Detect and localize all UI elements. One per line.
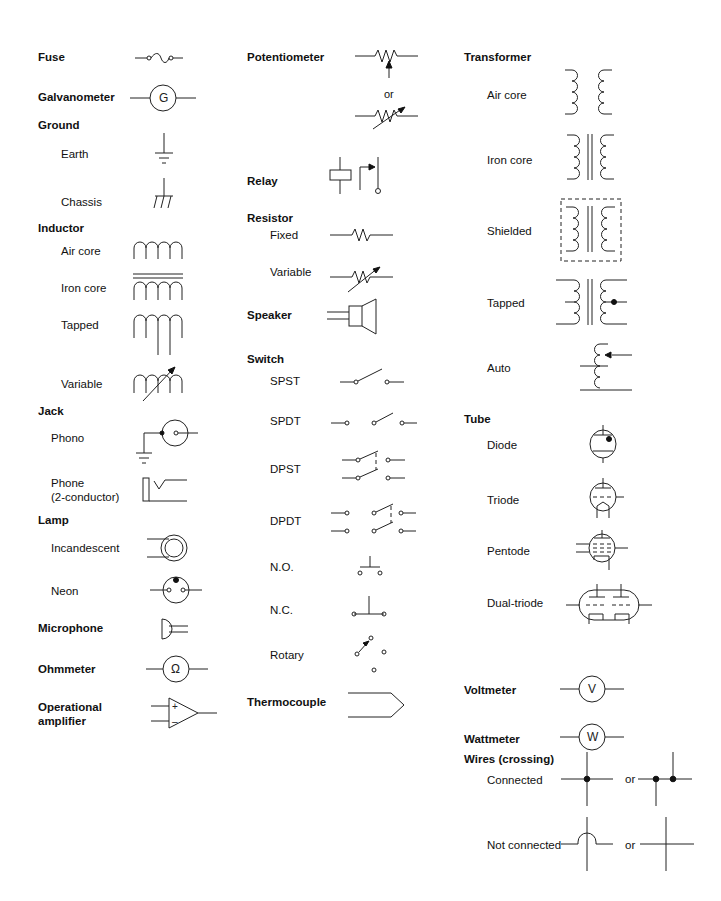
label-inductor-air: Air core bbox=[61, 244, 101, 258]
inductor-iron-core-symbol bbox=[133, 273, 183, 301]
potentiometer-or: or bbox=[384, 87, 394, 101]
resistor-fixed-symbol bbox=[330, 228, 394, 242]
tube-diode-symbol bbox=[588, 425, 618, 463]
label-galvanometer: Galvanometer bbox=[38, 90, 115, 104]
label-tube: Tube bbox=[464, 412, 491, 426]
label-tube-dual-triode: Dual-triode bbox=[487, 596, 543, 610]
label-fuse: Fuse bbox=[38, 50, 65, 64]
label-potentiometer: Potentiometer bbox=[247, 50, 324, 64]
label-switch: Switch bbox=[247, 352, 284, 366]
label-tube-triode: Triode bbox=[487, 493, 519, 507]
voltmeter-symbol: V bbox=[560, 675, 626, 703]
label-transformer-air: Air core bbox=[487, 88, 527, 102]
opamp-symbol: + – bbox=[151, 697, 217, 729]
label-transformer-shielded: Shielded bbox=[487, 224, 532, 238]
label-switch-dpdt: DPDT bbox=[270, 514, 301, 528]
label-ground: Ground bbox=[38, 118, 80, 132]
label-jack-phono: Phono bbox=[51, 431, 84, 445]
label-switch-spdt: SPDT bbox=[270, 414, 301, 428]
label-switch-dpst: DPST bbox=[270, 462, 301, 476]
label-transformer: Transformer bbox=[464, 50, 531, 64]
wattmeter-letter: W bbox=[587, 730, 599, 744]
label-transformer-iron: Iron core bbox=[487, 153, 532, 167]
wires-not-connected-alt-symbol bbox=[640, 817, 696, 873]
label-switch-spst: SPST bbox=[270, 374, 300, 388]
lamp-neon-symbol bbox=[150, 575, 202, 605]
resistor-variable-symbol bbox=[330, 265, 394, 295]
inductor-air-core-symbol bbox=[133, 240, 183, 260]
tube-triode-symbol bbox=[588, 478, 626, 520]
label-resistor: Resistor bbox=[247, 211, 293, 225]
thermocouple-symbol bbox=[347, 692, 407, 718]
label-transformer-tapped: Tapped bbox=[487, 296, 525, 310]
transformer-air-core-symbol bbox=[564, 69, 614, 119]
label-resistor-fixed: Fixed bbox=[270, 228, 298, 242]
chassis-ground-symbol bbox=[152, 178, 176, 210]
label-speaker: Speaker bbox=[247, 308, 292, 322]
label-ohmmeter: Ohmmeter bbox=[38, 662, 96, 676]
label-tube-diode: Diode bbox=[487, 438, 517, 452]
relay-symbol bbox=[328, 157, 380, 195]
wires-connected-alt-symbol bbox=[638, 752, 694, 808]
wires-not-connected-symbol bbox=[561, 817, 615, 873]
switch-dpdt-symbol bbox=[331, 503, 417, 543]
label-resistor-variable: Variable bbox=[270, 265, 311, 279]
wires-connected-symbol bbox=[561, 752, 615, 808]
transformer-iron-core-symbol bbox=[566, 134, 616, 184]
label-wires-crossing: Wires (crossing) bbox=[464, 752, 554, 766]
jack-phone-symbol bbox=[142, 477, 188, 503]
label-inductor: Inductor bbox=[38, 221, 84, 235]
label-relay: Relay bbox=[247, 174, 278, 188]
opamp-minus: – bbox=[172, 716, 178, 727]
switch-no-symbol bbox=[356, 556, 384, 578]
label-voltmeter: Voltmeter bbox=[464, 683, 516, 697]
label-switch-rotary: Rotary bbox=[270, 648, 304, 662]
ohmmeter-letter: Ω bbox=[171, 662, 180, 676]
potentiometer-variable-symbol bbox=[355, 105, 419, 131]
voltmeter-letter: V bbox=[588, 682, 596, 696]
label-wires-not-connected: Not connected bbox=[487, 838, 561, 852]
label-ground-earth: Earth bbox=[61, 147, 89, 161]
jack-phono-symbol bbox=[136, 419, 200, 467]
opamp-plus: + bbox=[172, 701, 178, 712]
tube-dual-triode-symbol bbox=[566, 584, 652, 624]
ohmmeter-symbol: Ω bbox=[146, 655, 208, 683]
transformer-shielded-symbol bbox=[560, 198, 622, 262]
galvanometer-symbol: G bbox=[130, 83, 196, 113]
inductor-variable-symbol bbox=[133, 366, 185, 402]
tube-pentode-symbol bbox=[576, 530, 630, 572]
inductor-tapped-symbol bbox=[133, 313, 183, 357]
label-wattmeter: Wattmeter bbox=[464, 732, 520, 746]
speaker-symbol bbox=[327, 297, 379, 337]
label-inductor-iron: Iron core bbox=[61, 281, 106, 295]
fuse-symbol bbox=[135, 52, 185, 64]
label-tube-pentode: Pentode bbox=[487, 544, 530, 558]
switch-nc-symbol bbox=[352, 596, 386, 618]
switch-spst-symbol bbox=[340, 368, 406, 388]
label-inductor-tapped: Tapped bbox=[61, 318, 99, 332]
wires-not-connected-or: or bbox=[625, 838, 635, 852]
switch-rotary-symbol bbox=[353, 634, 387, 676]
label-switch-nc: N.C. bbox=[270, 603, 293, 617]
label-lamp-incandescent: Incandescent bbox=[51, 541, 119, 555]
galvanometer-letter: G bbox=[159, 91, 168, 105]
label-microphone: Microphone bbox=[38, 621, 103, 635]
wattmeter-symbol: W bbox=[560, 723, 626, 751]
potentiometer-wiper-symbol bbox=[355, 48, 419, 80]
label-ground-chassis: Chassis bbox=[61, 195, 102, 209]
transformer-tapped-symbol bbox=[555, 279, 629, 329]
label-lamp: Lamp bbox=[38, 513, 69, 527]
earth-ground-symbol bbox=[154, 133, 174, 165]
label-jack-phone: Phone (2-conductor) bbox=[51, 476, 119, 504]
label-switch-no: N.O. bbox=[270, 560, 294, 574]
label-transformer-auto: Auto bbox=[487, 361, 511, 375]
label-operational-amplifier: Operational amplifier bbox=[38, 700, 102, 728]
switch-spdt-symbol bbox=[331, 410, 417, 428]
wires-connected-or: or bbox=[625, 772, 635, 786]
label-inductor-variable: Variable bbox=[61, 377, 102, 391]
lamp-incandescent-symbol bbox=[147, 533, 191, 563]
label-thermocouple: Thermocouple bbox=[247, 695, 326, 709]
switch-dpst-symbol bbox=[342, 450, 408, 490]
transformer-auto-symbol bbox=[580, 343, 636, 393]
microphone-symbol bbox=[160, 618, 190, 640]
